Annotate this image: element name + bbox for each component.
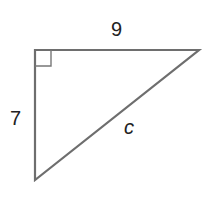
right-angle-marker [35,50,51,66]
label-top-side: 9 [111,19,122,39]
label-left-side: 7 [10,108,21,128]
triangle [35,50,199,180]
triangle-figure [0,0,209,223]
label-hypotenuse: c [124,117,134,137]
